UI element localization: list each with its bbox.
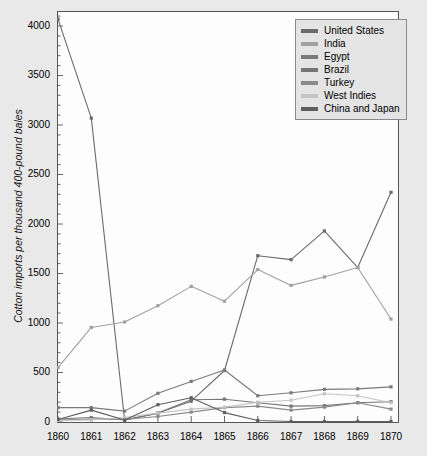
legend-label: Turkey	[324, 76, 354, 89]
data-point-marker	[56, 418, 59, 421]
data-point-marker	[389, 317, 392, 320]
legend-item: United States	[301, 24, 400, 37]
data-point-marker	[123, 320, 126, 323]
data-point-marker	[290, 284, 293, 287]
data-point-marker	[190, 408, 193, 411]
data-point-marker	[90, 418, 93, 421]
legend-swatch-icon	[301, 55, 318, 59]
y-tick-label: 0	[12, 416, 50, 427]
y-tick-label: 500	[12, 366, 50, 377]
data-point-marker	[56, 17, 59, 20]
data-point-marker	[190, 396, 193, 399]
data-point-marker	[290, 391, 293, 394]
legend-swatch-icon	[301, 94, 318, 98]
data-point-marker	[356, 394, 359, 397]
series-india	[56, 266, 392, 369]
data-point-marker	[389, 408, 392, 411]
data-point-marker	[323, 229, 326, 232]
data-point-marker	[356, 387, 359, 390]
chart-figure: Cotton imports per thousand 400-pound ba…	[0, 0, 427, 456]
y-tick-label: 3500	[12, 69, 50, 80]
legend-item: China and Japan	[301, 102, 400, 115]
data-point-marker	[323, 275, 326, 278]
data-point-marker	[156, 403, 159, 406]
legend-item: Brazil	[301, 63, 400, 76]
y-tick-label: 3000	[12, 119, 50, 130]
data-point-marker	[90, 326, 93, 329]
data-point-marker	[290, 420, 293, 423]
data-point-marker	[256, 401, 259, 404]
data-point-marker	[156, 415, 159, 418]
legend-label: West Indies	[324, 89, 376, 102]
data-point-marker	[389, 401, 392, 404]
data-point-marker	[90, 409, 93, 412]
legend-label: China and Japan	[324, 102, 400, 115]
data-point-marker	[256, 394, 259, 397]
data-point-marker	[123, 410, 126, 413]
data-point-marker	[356, 266, 359, 269]
data-point-marker	[156, 411, 159, 414]
data-point-marker	[223, 406, 226, 409]
chart-legend: United StatesIndiaEgyptBrazilTurkeyWest …	[295, 19, 407, 120]
data-point-marker	[290, 409, 293, 412]
data-point-marker	[323, 420, 326, 423]
data-point-marker	[256, 268, 259, 271]
legend-label: Brazil	[324, 63, 349, 76]
legend-label: United States	[324, 24, 384, 37]
data-point-marker	[389, 385, 392, 388]
legend-swatch-icon	[301, 107, 318, 111]
legend-swatch-icon	[301, 29, 318, 33]
legend-swatch-icon	[301, 68, 318, 72]
y-tick-label: 4000	[12, 20, 50, 31]
data-point-marker	[156, 304, 159, 307]
data-point-marker	[123, 418, 126, 421]
data-point-marker	[223, 368, 226, 371]
data-point-marker	[323, 388, 326, 391]
legend-item: Turkey	[301, 76, 400, 89]
legend-item: West Indies	[301, 89, 400, 102]
data-point-marker	[190, 411, 193, 414]
data-point-marker	[290, 399, 293, 402]
data-point-marker	[290, 405, 293, 408]
data-point-marker	[156, 392, 159, 395]
data-point-marker	[389, 420, 392, 423]
data-point-marker	[223, 398, 226, 401]
legend-label: India	[324, 37, 346, 50]
data-point-marker	[256, 419, 259, 422]
data-point-marker	[90, 116, 93, 119]
data-point-marker	[56, 406, 59, 409]
y-tick-label: 2000	[12, 218, 50, 229]
legend-item: Egypt	[301, 50, 400, 63]
legend-label: Egypt	[324, 50, 350, 63]
data-point-marker	[56, 366, 59, 369]
legend-swatch-icon	[301, 42, 318, 46]
data-point-marker	[256, 254, 259, 257]
series-line	[58, 268, 391, 368]
data-point-marker	[389, 191, 392, 194]
data-point-marker	[223, 411, 226, 414]
y-tick-label: 2500	[12, 168, 50, 179]
data-point-marker	[256, 405, 259, 408]
data-point-marker	[356, 420, 359, 423]
data-point-marker	[323, 392, 326, 395]
data-point-marker	[356, 401, 359, 404]
data-point-marker	[223, 300, 226, 303]
legend-swatch-icon	[301, 81, 318, 85]
data-point-marker	[323, 406, 326, 409]
data-point-marker	[290, 258, 293, 261]
y-tick-label: 1000	[12, 317, 50, 328]
legend-item: India	[301, 37, 400, 50]
y-tick-label: 1500	[12, 267, 50, 278]
data-point-marker	[190, 285, 193, 288]
data-point-marker	[190, 380, 193, 383]
x-tick-label: 1870	[371, 431, 411, 442]
